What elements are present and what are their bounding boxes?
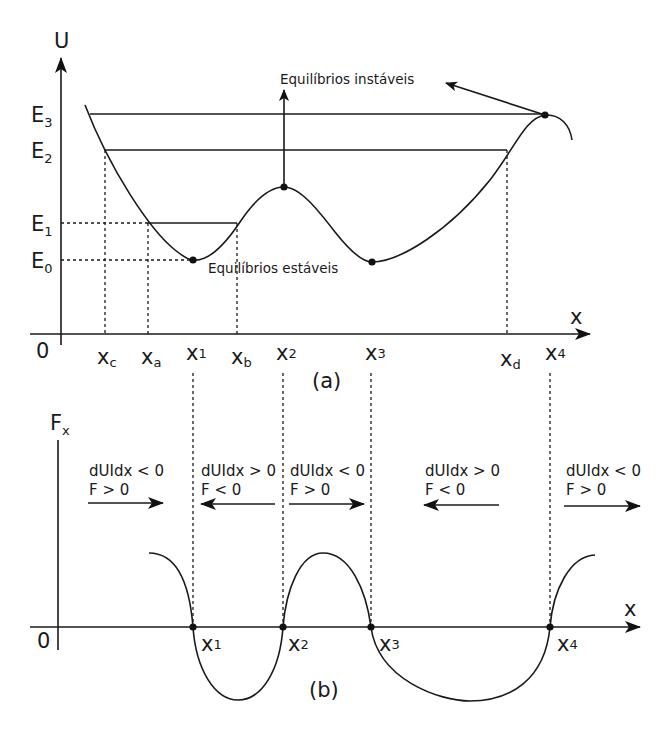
e3-label: E3 [31, 103, 53, 130]
region-3-force: F > 0 [290, 481, 330, 499]
e1-label: E1 [31, 212, 53, 239]
xa-label: xa [141, 345, 161, 370]
potential-curve [85, 105, 572, 262]
e2-label: E2 [31, 139, 53, 166]
xb-label: xb [231, 345, 252, 370]
zero-point-x2 [279, 623, 286, 630]
region-5-force: F > 0 [566, 481, 606, 499]
x1-label-b: x1 [201, 632, 222, 656]
xd-label: xd [500, 347, 521, 372]
stable-equilibria-label: Equilíbrios estáveis [208, 260, 338, 276]
region-2-derivative: dUIdx > 0 [201, 462, 276, 480]
f-axis-label: Fx [50, 411, 70, 438]
panel-a: U x 0 Equilíbrios instáveis Equilíbrios … [30, 29, 590, 393]
potential-force-diagram: U x 0 Equilíbrios instáveis Equilíbrios … [0, 0, 661, 734]
u-axis-label: U [54, 29, 69, 53]
zero-point-x4 [546, 623, 553, 630]
region-1: dUIdx < 0 F > 0 [88, 462, 164, 503]
region-4: dUIdx > 0 F < 0 [424, 462, 500, 505]
region-5: dUIdx < 0 F > 0 [564, 462, 641, 506]
caption-b: (b) [309, 678, 339, 702]
x2-label-b: x2 [288, 632, 309, 656]
unstable-equilibria-label: Equilíbrios instáveis [280, 71, 414, 87]
origin-label-a: 0 [36, 339, 49, 363]
xc-label: xc [97, 345, 117, 370]
zero-point-x3 [367, 623, 374, 630]
x4-label-b: x4 [557, 632, 578, 656]
caption-a: (a) [312, 369, 341, 393]
region-4-force: F < 0 [425, 481, 465, 499]
region-2: dUIdx > 0 F < 0 [201, 462, 276, 504]
x3-label-b: x3 [379, 632, 400, 656]
x-axis-label-a: x [570, 305, 582, 329]
x4-label-a: x4 [545, 341, 566, 365]
x1-label-a: x1 [186, 341, 207, 365]
x2-label-a: x2 [276, 341, 297, 365]
zero-point-x1 [189, 623, 196, 630]
x3-label-a: x3 [365, 341, 386, 365]
region-1-force: F > 0 [89, 481, 129, 499]
e0-label: E0 [31, 249, 53, 276]
stable-point-x1 [189, 256, 196, 263]
region-2-force: F < 0 [201, 481, 241, 499]
origin-label-b: 0 [37, 629, 50, 653]
stable-point-x3 [368, 258, 375, 265]
arrow-to-unstable-label-2 [446, 83, 545, 115]
region-3: dUIdx < 0 F > 0 [289, 462, 365, 504]
panel-b: Fx x 0 x1 x2 x3 x4 dUIdx < 0 F > 0 dUIdx… [30, 411, 641, 702]
x-axis-label-b: x [624, 597, 636, 621]
region-1-derivative: dUIdx < 0 [89, 462, 164, 480]
region-5-derivative: dUIdx < 0 [566, 462, 641, 480]
region-4-derivative: dUIdx > 0 [425, 462, 500, 480]
region-3-derivative: dUIdx < 0 [290, 462, 365, 480]
